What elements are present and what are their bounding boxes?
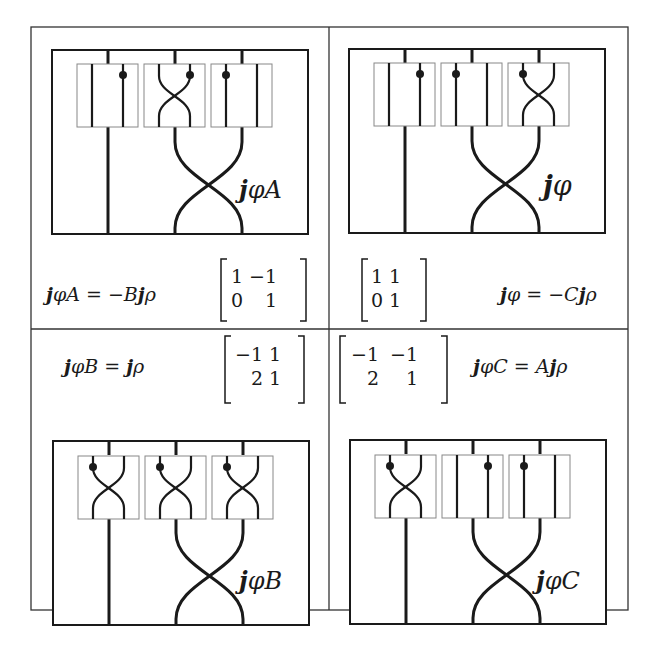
- eq-part: ρ: [133, 355, 144, 377]
- matrix-cell: 1: [246, 288, 280, 312]
- eq-part: φB =: [71, 355, 126, 377]
- equation-top-right: jφ = −Cjρ: [500, 283, 597, 305]
- matrix-cell: 1: [382, 366, 421, 390]
- label-rest: φC: [545, 567, 580, 595]
- matrix-cell: 2: [232, 366, 266, 390]
- eq-part: ρ: [586, 283, 597, 305]
- label-j: j: [536, 566, 545, 595]
- eq-j: j: [473, 355, 480, 377]
- label-rest: φA: [248, 176, 282, 204]
- eq-j: j: [126, 355, 133, 377]
- diagram-label-bottom-right: jφC: [536, 566, 580, 595]
- matrix-cell: 1: [266, 342, 284, 366]
- matrix-cell: 0: [368, 288, 386, 312]
- braid-diagram-top-right: [349, 49, 605, 233]
- braid-figure: jφA jφ jφB jφC jφA = −Bjρ jφ = −Cjρ jφB …: [0, 0, 654, 662]
- matrix-cell: 1: [386, 264, 404, 288]
- eq-j: j: [138, 283, 145, 305]
- equation-top-left: jφA = −Bjρ: [46, 283, 156, 305]
- matrix-top-left: 1−1 01: [228, 264, 280, 312]
- matrix-cell: 0: [228, 288, 246, 312]
- eq-j: j: [579, 283, 586, 305]
- matrix-bottom-left: −11 21: [232, 342, 284, 390]
- eq-part: ρ: [145, 283, 156, 305]
- braid-diagram-bottom-right: [350, 440, 606, 624]
- diagram-label-top-left: jφA: [239, 175, 282, 204]
- equation-bottom-left: jφB = jρ: [64, 355, 144, 377]
- matrix-cell: −1: [232, 342, 266, 366]
- matrix-cell: 1: [266, 366, 284, 390]
- diagram-label-top-right: jφ: [543, 170, 572, 201]
- eq-j: j: [46, 283, 53, 305]
- equation-bottom-right: jφC = Ajρ: [473, 355, 567, 377]
- label-rest: φ: [553, 170, 572, 201]
- eq-j: j: [64, 355, 71, 377]
- label-j: j: [239, 566, 248, 595]
- eq-part: φA = −B: [53, 283, 138, 305]
- matrix-cell: 2: [348, 366, 382, 390]
- label-j: j: [543, 170, 553, 201]
- eq-part: φ = −C: [507, 283, 579, 305]
- matrix-bottom-right: −1−1 21: [348, 342, 421, 390]
- braid-diagram-top-left: [52, 50, 308, 234]
- matrix-cell: −1: [382, 342, 421, 366]
- braid-diagram-bottom-left: [53, 441, 309, 625]
- diagram-label-bottom-left: jφB: [239, 566, 282, 595]
- label-rest: φB: [248, 567, 282, 595]
- eq-part: φC = A: [480, 355, 550, 377]
- figure-svg: [0, 0, 654, 662]
- eq-part: ρ: [556, 355, 567, 377]
- label-j: j: [239, 175, 248, 204]
- matrix-top-right: 11 01: [368, 264, 404, 312]
- matrix-cell: −1: [246, 264, 280, 288]
- eq-j: j: [500, 283, 507, 305]
- matrix-cell: −1: [348, 342, 382, 366]
- matrix-cell: 1: [368, 264, 386, 288]
- matrix-cell: 1: [386, 288, 404, 312]
- matrix-cell: 1: [228, 264, 246, 288]
